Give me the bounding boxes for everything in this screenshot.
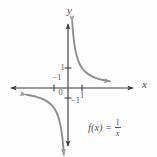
y-axis-label: y: [67, 5, 72, 16]
fraction-numerator: 1: [116, 118, 120, 128]
tick-label-y-negative-one: −1: [71, 96, 80, 105]
curve-branch-positive: [72, 21, 110, 81]
tick-label-y-positive-one: 1: [61, 63, 65, 72]
curve-branch-negative: [26, 95, 64, 155]
tick-label-x-negative-one: −1: [53, 73, 62, 82]
tick-label-x-positive-one: 1: [80, 91, 84, 100]
function-graph-figure: y x 1 −1 −1 1 0 f(x) = 1 x: [0, 0, 157, 157]
fraction-one-over-x: 1 x: [115, 118, 121, 138]
equals-sign: =: [105, 123, 112, 134]
function-name-text: f(x): [88, 123, 103, 134]
fraction-denominator: x: [116, 128, 120, 138]
function-equation-annotation: f(x) = 1 x: [88, 118, 121, 138]
plot-canvas: [0, 0, 157, 157]
origin-label: 0: [59, 88, 63, 97]
x-axis-label: x: [142, 79, 147, 90]
